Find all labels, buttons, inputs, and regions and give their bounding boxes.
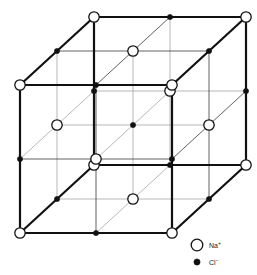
- lattice-node-sodium-ion: [167, 80, 177, 90]
- lattice-edge-inner: [209, 91, 246, 125]
- lattice-node-sodium-ion: [241, 12, 251, 22]
- lattice-edge-outer: [57, 17, 94, 51]
- legend: Na+ Cl−: [191, 239, 221, 265]
- lattice-node-chloride-ion: [167, 14, 172, 19]
- lattice-node-sodium-ion: [128, 46, 138, 56]
- lattice-node-sodium-ion: [89, 12, 99, 22]
- nacl-lattice-figure: Na+ Cl−: [0, 0, 257, 275]
- lattice-edge-outer: [172, 199, 209, 233]
- lattice-node-chloride-ion: [206, 196, 211, 201]
- lattice-edge-hidden: [96, 125, 133, 159]
- lattice-node-sodium-ion: [15, 228, 25, 238]
- lattice-edge-hidden: [20, 125, 57, 159]
- lattice-edge-outer: [20, 51, 57, 85]
- lattice-node-chloride-ion: [54, 196, 59, 201]
- lattice-edge-hidden: [133, 91, 170, 125]
- lattice-node-chloride-ion: [93, 230, 98, 235]
- lattice-node-sodium-ion: [52, 120, 62, 130]
- lattice-edge-inner: [96, 51, 133, 85]
- legend-na-open-circle-icon: [191, 239, 203, 251]
- lattice-node-chloride-ion: [169, 156, 174, 161]
- lattice-node-chloride-ion: [93, 82, 98, 87]
- lattice-edge-inner: [172, 125, 209, 159]
- lattice-edge-outer: [57, 165, 94, 199]
- legend-cl-label: Cl−: [209, 257, 219, 266]
- lattice-node-sodium-ion: [167, 228, 177, 238]
- lattice-node-chloride-ion: [243, 88, 248, 93]
- lattice-node-sodium-ion: [15, 80, 25, 90]
- lattice-node-sodium-ion: [204, 120, 214, 130]
- lattice-node-sodium-ion: [241, 160, 251, 170]
- lattice-node-chloride-ion: [206, 48, 211, 53]
- lattice-node-chloride-ion: [54, 48, 59, 53]
- lattice-node-chloride-ion: [167, 162, 172, 167]
- lattice-edge-outer: [209, 165, 246, 199]
- lattice-edge-outer: [209, 17, 246, 51]
- lattice-edge-hidden: [133, 165, 170, 199]
- lattice-node-chloride-ion: [91, 88, 96, 93]
- lattice-edge-hidden: [96, 199, 133, 233]
- lattice-node-chloride-ion: [130, 122, 135, 127]
- lattice-diagram: Na+ Cl−: [0, 0, 257, 275]
- legend-na-label: Na+: [209, 240, 221, 249]
- legend-cl-filled-dot-icon: [194, 259, 200, 265]
- lattice-edge-outer: [172, 51, 209, 85]
- lattice-edge-inner: [133, 17, 170, 51]
- lattice-edge-outer: [20, 199, 57, 233]
- lattice-node-chloride-ion: [17, 156, 22, 161]
- lattice-node-sodium-ion: [128, 194, 138, 204]
- lattice-node-sodium-ion: [91, 154, 101, 164]
- lattice-edge-hidden: [57, 91, 94, 125]
